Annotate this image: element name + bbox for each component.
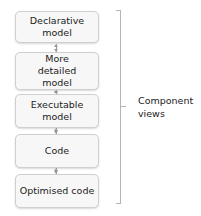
box-label: Optimised code <box>20 185 95 197</box>
bracket-tick <box>121 106 126 107</box>
box-executable-model: Executable model <box>15 94 99 128</box>
box-label: Code <box>45 145 69 157</box>
label-line-1: Component <box>138 94 193 107</box>
component-views-label: Component views <box>138 94 193 120</box>
box-label: Executable model <box>16 99 98 123</box>
box-label: More detailed model <box>30 53 84 89</box>
box-code: Code <box>15 134 99 168</box>
box-more-detailed-model: More detailed model <box>15 52 99 90</box>
bidirectional-arrow-icon <box>56 44 57 52</box>
label-line-2: views <box>138 107 193 120</box>
box-declarative-model: Declarative model <box>15 11 99 43</box>
box-optimised-code: Optimised code <box>15 174 99 208</box>
grouping-bracket <box>116 10 121 204</box>
box-label: Declarative model <box>16 15 98 39</box>
